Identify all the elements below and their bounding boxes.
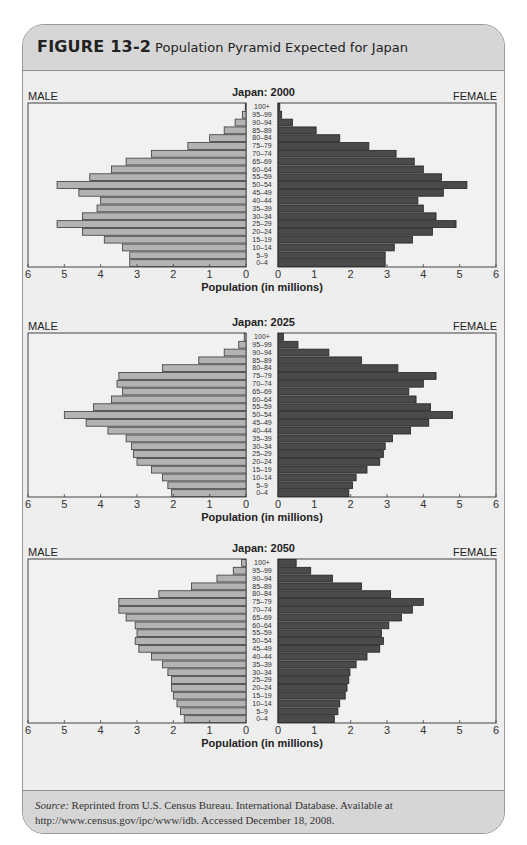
x-tick-label: 5 (457, 268, 463, 280)
male-bar (101, 197, 246, 204)
female-bar (278, 150, 396, 157)
male-bar (122, 244, 246, 251)
male-bar (217, 575, 246, 582)
female-bar (278, 349, 329, 356)
source-note: Source: Reprinted from U.S. Census Burea… (23, 790, 504, 833)
female-bar (278, 567, 311, 574)
female-bar (278, 653, 367, 660)
female-bar (278, 341, 298, 348)
male-bar (117, 380, 246, 387)
male-bar (224, 127, 246, 134)
x-tick-label: 5 (61, 724, 67, 736)
x-tick-label: 4 (98, 498, 104, 510)
female-bar (278, 228, 432, 235)
x-tick-label: 3 (384, 498, 390, 510)
age-group-label: 35–39 (252, 435, 272, 442)
male-bar (130, 252, 246, 259)
female-bar (278, 575, 333, 582)
male-bar (122, 388, 246, 395)
male-bar (172, 490, 246, 497)
source-text: Reprinted from U.S. Census Bureau. Inter… (35, 799, 393, 826)
female-bar (278, 388, 409, 395)
female-bar (278, 606, 412, 613)
female-bar (278, 197, 418, 204)
figure-header: FIGURE 13-2Population Pyramid Expected f… (23, 25, 504, 71)
female-bar (278, 104, 280, 111)
female-bar (278, 334, 283, 341)
pyramid-chart-2000: MALE Japan: 2000 FEMALE 100+95–9990–9485… (0, 90, 527, 300)
age-group-label: 40–44 (252, 653, 272, 660)
female-bar (278, 591, 391, 598)
male-bar (192, 583, 247, 590)
age-group-label: 70–74 (252, 606, 272, 613)
male-bar (126, 158, 246, 165)
age-group-label: 60–64 (252, 396, 272, 403)
female-bar (278, 669, 350, 676)
female-bar (278, 700, 340, 707)
male-bar (93, 404, 246, 411)
female-bar (278, 396, 416, 403)
age-group-label: 70–74 (252, 380, 272, 387)
female-bar (278, 435, 392, 442)
x-tick-label: 5 (61, 268, 67, 280)
male-bar (86, 419, 246, 426)
age-group-label: 90–94 (252, 119, 272, 126)
female-bar (278, 127, 316, 134)
age-group-label: 10–14 (252, 700, 272, 707)
age-group-label: 70–74 (252, 150, 272, 157)
female-bar (278, 404, 431, 411)
source-prefix: Source: (35, 799, 69, 811)
x-tick-label: 0 (275, 724, 281, 736)
male-bar (242, 111, 246, 118)
pyramid-plot: 100+95–9990–9485–8980–8475–7970–7465–696… (0, 320, 527, 530)
male-bar (135, 638, 246, 645)
female-bar (278, 638, 383, 645)
age-group-label: 75–79 (252, 142, 272, 149)
x-tick-label: 6 (25, 498, 31, 510)
age-group-label: 85–89 (252, 127, 272, 134)
age-group-label: 50–54 (252, 181, 272, 188)
male-bar (137, 458, 246, 465)
female-bar (278, 622, 389, 629)
male-bar (83, 213, 247, 220)
female-bar (278, 692, 345, 699)
x-tick-label: 2 (348, 268, 354, 280)
age-group-label: 55–59 (252, 173, 272, 180)
age-group-label: 20–24 (252, 684, 272, 691)
age-group-label: 15–19 (252, 692, 272, 699)
age-group-label: 5–9 (256, 708, 268, 715)
x-tick-label: 6 (25, 268, 31, 280)
x-tick-label: 0 (243, 268, 249, 280)
male-bar (239, 341, 246, 348)
female-bar (278, 443, 385, 450)
female-bar (278, 111, 282, 118)
age-group-label: 45–49 (252, 189, 272, 196)
male-bar (242, 560, 246, 567)
age-group-label: 40–44 (252, 427, 272, 434)
female-bar (278, 599, 423, 606)
male-bar (130, 260, 246, 267)
male-bar (119, 373, 246, 380)
x-axis-title: Population (in millions) (201, 737, 323, 749)
female-bar (278, 260, 385, 267)
male-bar (137, 630, 246, 637)
x-tick-label: 2 (170, 268, 176, 280)
male-bar (112, 166, 246, 173)
male-bar (139, 645, 246, 652)
female-bar (278, 630, 382, 637)
male-bar (162, 474, 246, 481)
male-bar (119, 599, 246, 606)
male-bar (233, 567, 246, 574)
age-group-label: 50–54 (252, 411, 272, 418)
age-group-label: 5–9 (256, 252, 268, 259)
x-tick-label: 2 (170, 724, 176, 736)
age-group-label: 0–4 (256, 259, 268, 266)
age-group-label: 95–99 (252, 111, 272, 118)
male-bar (132, 443, 246, 450)
x-tick-label: 6 (493, 268, 499, 280)
female-bar (278, 466, 367, 473)
female-bar (278, 213, 436, 220)
male-bar (152, 150, 246, 157)
male-bar (112, 396, 246, 403)
age-group-label: 85–89 (252, 357, 272, 364)
